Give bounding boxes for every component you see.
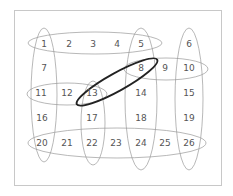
cell-label: 24 <box>135 138 147 148</box>
cell-label: 22 <box>86 138 97 148</box>
cell-label: 11 <box>35 88 46 98</box>
cell-label: 25 <box>159 138 170 148</box>
cell-label: 26 <box>183 138 195 148</box>
cell-label: 12 <box>61 88 72 98</box>
cell-label: 23 <box>110 138 121 148</box>
cell-label: 7 <box>41 63 47 73</box>
cell-label: 18 <box>135 113 147 123</box>
group-highlight-13-8 <box>72 52 161 112</box>
cell-label: 16 <box>36 113 48 123</box>
cell-label: 15 <box>183 88 194 98</box>
cell-label: 5 <box>138 39 144 49</box>
cell-label: 1 <box>41 39 47 49</box>
group-col-5-24 <box>125 28 157 170</box>
cell-label: 17 <box>86 113 97 123</box>
cell-label: 3 <box>90 39 96 49</box>
cell-label: 6 <box>186 39 192 49</box>
cell-label: 9 <box>162 63 168 73</box>
cell-label: 8 <box>138 63 144 73</box>
cell-label: 21 <box>61 138 72 148</box>
set-diagram: 1234567891011121314151617181920212223242… <box>0 0 233 196</box>
cell-label: 13 <box>86 88 97 98</box>
cell-label: 10 <box>183 63 195 73</box>
cell-label: 19 <box>183 113 195 123</box>
cell-label: 14 <box>135 88 147 98</box>
cell-label: 4 <box>114 39 120 49</box>
cell-label: 20 <box>36 138 48 148</box>
cell-label: 2 <box>66 39 72 49</box>
